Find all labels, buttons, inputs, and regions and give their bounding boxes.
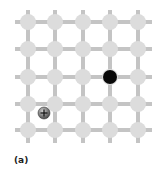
lattice-atom [102, 122, 118, 138]
lattice-atom [20, 122, 36, 138]
lattice-atom [130, 96, 146, 112]
lattice-atom [130, 41, 146, 57]
electron-particle [103, 70, 117, 84]
lattice-atom [75, 41, 91, 57]
lattice-atom [20, 14, 36, 30]
lattice-atom [130, 122, 146, 138]
figure-caption: (a) [14, 155, 28, 165]
lattice-atom [102, 41, 118, 57]
lattice-atom [20, 41, 36, 57]
crystal-lattice-diagram [0, 0, 161, 150]
lattice-atom [75, 96, 91, 112]
lattice-atom [47, 69, 63, 85]
lattice-atom [20, 69, 36, 85]
lattice-atom [130, 14, 146, 30]
lattice-atom [102, 14, 118, 30]
lattice-atom [75, 14, 91, 30]
electron-icon [103, 70, 117, 84]
lattice-atom [130, 69, 146, 85]
lattice-atom [102, 96, 118, 112]
lattice-atom [47, 122, 63, 138]
lattice-atom [75, 122, 91, 138]
lattice-atom [75, 69, 91, 85]
positive-ion-particle [38, 107, 50, 119]
lattice-atom [47, 41, 63, 57]
lattice-atom [47, 96, 63, 112]
lattice-atom [20, 96, 36, 112]
lattice-atom [47, 14, 63, 30]
